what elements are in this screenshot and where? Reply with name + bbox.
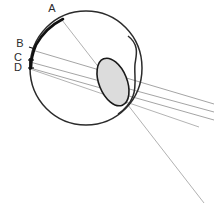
label-point-d: D <box>14 61 22 73</box>
crystalline-lens <box>91 54 136 111</box>
eye-ray-trace-figure: A B C D <box>0 0 214 216</box>
label-point-a: A <box>48 2 56 14</box>
eye-diagram-canvas: A B C D <box>0 0 214 216</box>
label-point-b: B <box>16 37 23 49</box>
